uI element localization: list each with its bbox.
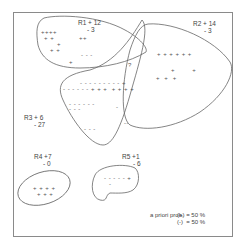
region-r3-label: R3 + 6 <box>24 114 43 121</box>
region-r1-label: R1 + 12 <box>78 19 101 26</box>
r3-points: - - - - - - + + + + + + + <box>63 86 134 92</box>
r3-neg-points: - - - <box>84 126 96 132</box>
region-r3-neg-count: - 27 <box>34 121 45 128</box>
r1-points: + + <box>44 35 54 41</box>
r2-points: + + <box>171 67 196 73</box>
region-r5-label: R5 +1 <box>122 153 140 160</box>
prior-prob-negative: (-) = 50 % <box>177 219 205 226</box>
region-r2-outline <box>123 24 231 128</box>
r1-points: ++ <box>79 35 87 41</box>
r2-points: + + + + + + <box>157 51 192 57</box>
region-r1-neg-count: - 3 <box>87 26 95 33</box>
r3-neg-points: -- <box>124 120 129 126</box>
region-r5-outline <box>92 165 138 200</box>
region-r4-label: R4 +7 <box>34 153 52 160</box>
r3-neg-points: - <box>116 104 119 110</box>
prior-prob-positive: (+) = 50 % <box>177 212 205 219</box>
r1-neg-points: - - - <box>81 52 93 58</box>
r4-points: + + + <box>37 191 53 197</box>
region-r5-neg-count: - 6 <box>133 160 141 167</box>
overlap-mark: ? <box>128 62 132 68</box>
region-r4-neg-count: - 0 <box>43 160 51 167</box>
region-r2-neg-count: - 3 <box>204 27 212 34</box>
r3-neg-points: - - - <box>69 106 81 112</box>
r1-points: + <box>69 59 73 65</box>
r1-points: + + <box>50 47 60 53</box>
region-r2-label: R2 + 14 <box>193 20 216 27</box>
r5-neg-points: - <box>109 181 112 187</box>
r2-points: + + + <box>156 75 177 81</box>
